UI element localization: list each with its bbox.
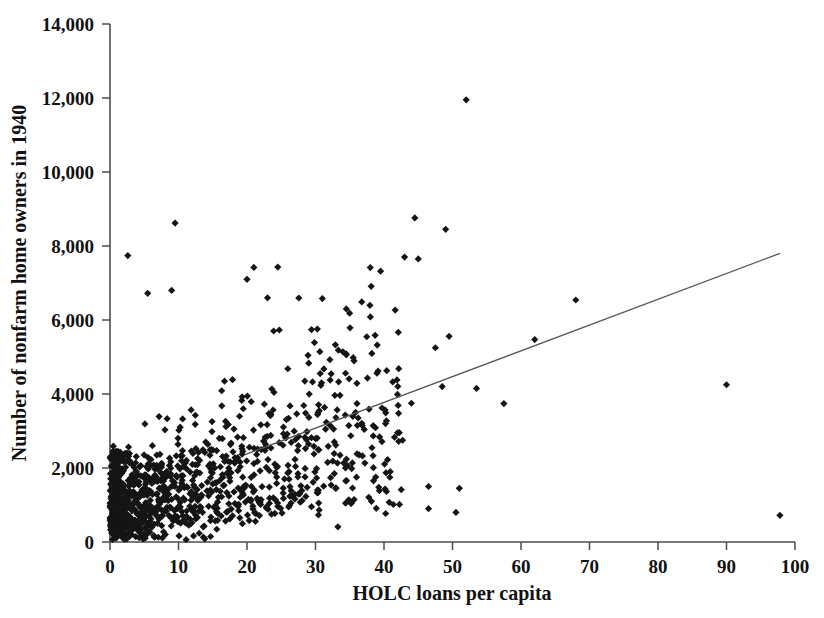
data-point bbox=[342, 370, 349, 377]
data-point bbox=[383, 367, 390, 374]
data-point bbox=[286, 402, 293, 409]
data-point bbox=[445, 333, 452, 340]
data-point bbox=[316, 348, 323, 355]
data-point bbox=[367, 264, 374, 271]
data-point bbox=[250, 264, 257, 271]
data-point bbox=[133, 453, 140, 460]
data-point bbox=[425, 483, 432, 490]
data-point bbox=[463, 96, 470, 103]
data-point bbox=[367, 313, 374, 320]
data-point bbox=[230, 425, 237, 432]
data-point bbox=[284, 365, 291, 372]
regression-trend-line bbox=[245, 253, 780, 454]
data-point bbox=[335, 378, 342, 385]
data-point bbox=[328, 370, 335, 377]
data-point bbox=[234, 433, 241, 440]
data-point bbox=[171, 219, 178, 226]
x-tick-label: 60 bbox=[512, 556, 531, 577]
data-point bbox=[161, 426, 168, 433]
data-point bbox=[342, 477, 349, 484]
data-point bbox=[239, 474, 246, 481]
data-point bbox=[336, 452, 343, 459]
scatter-plot-figure: 02,0004,0006,0008,00010,00012,00014,000 … bbox=[0, 0, 824, 618]
y-tick-label: 14,000 bbox=[42, 14, 94, 35]
x-tick-label: 10 bbox=[169, 556, 188, 577]
data-point bbox=[473, 385, 480, 392]
data-point bbox=[125, 443, 132, 450]
data-point bbox=[192, 412, 199, 419]
data-point bbox=[243, 276, 250, 283]
data-point bbox=[395, 329, 402, 336]
data-point bbox=[229, 376, 236, 383]
data-point bbox=[377, 268, 384, 275]
data-point bbox=[372, 332, 379, 339]
data-point bbox=[292, 463, 299, 470]
data-point bbox=[208, 418, 215, 425]
data-point bbox=[776, 512, 783, 519]
y-tick-label: 0 bbox=[85, 532, 95, 553]
data-point bbox=[308, 503, 315, 510]
data-point bbox=[218, 387, 225, 394]
data-point bbox=[395, 402, 402, 409]
data-point bbox=[370, 432, 377, 439]
data-point bbox=[369, 452, 376, 459]
data-point bbox=[368, 444, 375, 451]
data-point bbox=[276, 326, 283, 333]
data-point bbox=[411, 214, 418, 221]
data-point bbox=[324, 459, 331, 466]
data-point bbox=[261, 401, 268, 408]
data-point bbox=[345, 375, 352, 382]
y-tick-label: 12,000 bbox=[42, 88, 94, 109]
data-point bbox=[302, 465, 309, 472]
data-point bbox=[305, 360, 312, 367]
x-axis: 0102030405060708090100 bbox=[105, 542, 809, 577]
data-point bbox=[304, 352, 311, 359]
data-point bbox=[244, 512, 251, 519]
data-point bbox=[257, 421, 264, 428]
data-point bbox=[308, 326, 315, 333]
y-tick-label: 4,000 bbox=[51, 384, 94, 405]
data-point bbox=[531, 336, 538, 343]
data-point bbox=[280, 485, 287, 492]
data-point bbox=[392, 307, 399, 314]
data-point bbox=[395, 365, 402, 372]
data-point bbox=[168, 287, 175, 294]
data-point bbox=[723, 381, 730, 388]
data-point bbox=[244, 392, 251, 399]
data-point bbox=[353, 380, 360, 387]
x-tick-label: 20 bbox=[238, 556, 257, 577]
trend-line-layer bbox=[245, 253, 780, 454]
data-point bbox=[284, 462, 291, 469]
data-point bbox=[415, 255, 422, 262]
data-point bbox=[368, 283, 375, 290]
data-point bbox=[124, 252, 131, 259]
x-tick-label: 80 bbox=[649, 556, 668, 577]
data-point bbox=[270, 327, 277, 334]
data-point bbox=[221, 482, 228, 489]
data-point bbox=[144, 290, 151, 297]
data-point bbox=[456, 485, 463, 492]
data-point bbox=[192, 421, 199, 428]
y-axis: 02,0004,0006,0008,00010,00012,00014,000 bbox=[42, 14, 110, 553]
data-point bbox=[229, 448, 236, 455]
data-point bbox=[235, 507, 242, 514]
data-point bbox=[315, 499, 322, 506]
data-point bbox=[174, 435, 181, 442]
x-tick-label: 90 bbox=[717, 556, 736, 577]
data-point bbox=[345, 422, 352, 429]
data-point bbox=[252, 518, 259, 525]
data-point bbox=[425, 505, 432, 512]
data-point bbox=[240, 405, 247, 412]
data-point bbox=[319, 295, 326, 302]
data-point bbox=[155, 413, 162, 420]
data-point bbox=[346, 324, 353, 331]
x-tick-label: 100 bbox=[781, 556, 810, 577]
data-point bbox=[175, 532, 182, 539]
data-point bbox=[240, 434, 247, 441]
data-point bbox=[327, 376, 334, 383]
data-point bbox=[295, 294, 302, 301]
data-point bbox=[173, 452, 180, 459]
data-point bbox=[253, 451, 260, 458]
data-point bbox=[218, 402, 225, 409]
data-point bbox=[294, 447, 301, 454]
